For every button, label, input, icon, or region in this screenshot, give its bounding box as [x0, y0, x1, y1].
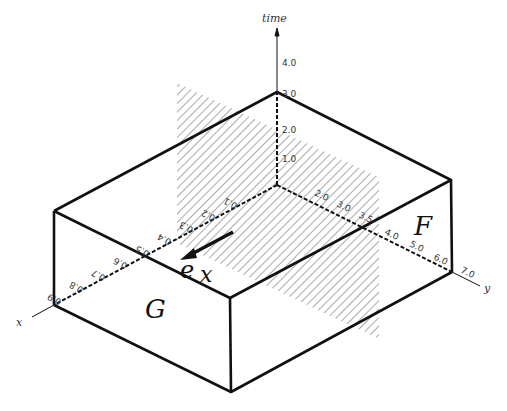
x-axis-label: x — [16, 316, 23, 329]
svg-text:1.0: 1.0 — [282, 154, 297, 164]
svg-text:0.4: 0.4 — [155, 231, 173, 247]
svg-text:x: x — [200, 262, 213, 287]
svg-text:5.0: 5.0 — [408, 239, 425, 254]
svg-text:0.9: 0.9 — [45, 291, 63, 307]
svg-text:4.0: 4.0 — [282, 58, 297, 68]
svg-text:7.0: 7.0 — [459, 265, 476, 280]
diagram-canvas: 1.0 2.0 3.0 4.0 time 2.0 3.0 3.5 4.0 5.0… — [0, 0, 507, 411]
svg-text:6.0: 6.0 — [432, 252, 449, 267]
svg-text:e: e — [180, 256, 194, 284]
svg-text:0.6: 0.6 — [111, 255, 129, 271]
y-axis-label: y — [483, 282, 491, 295]
face-label-g: G — [145, 294, 166, 324]
svg-text:0.8: 0.8 — [67, 279, 85, 295]
face-label-f: F — [413, 211, 433, 241]
svg-text:0.5: 0.5 — [134, 244, 151, 260]
svg-text:0.7: 0.7 — [90, 268, 107, 284]
time-axis-label: time — [262, 12, 287, 25]
svg-text:3.0: 3.0 — [282, 89, 297, 99]
svg-text:2.0: 2.0 — [282, 125, 297, 135]
